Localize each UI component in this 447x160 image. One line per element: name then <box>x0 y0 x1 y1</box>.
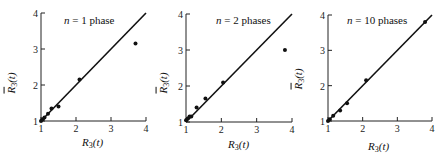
data-point <box>345 101 349 105</box>
x-tick-label: 2 <box>219 124 224 135</box>
data-point <box>78 78 82 82</box>
data-point <box>203 97 207 101</box>
reference-line <box>186 14 292 122</box>
x-tick-label: 1 <box>326 123 331 134</box>
panel-n10: 12341234 n = 10 phases R3(t) R3(t) <box>298 0 447 160</box>
y-tick-label: 4 <box>320 10 325 21</box>
y-axis-label: R3(t) <box>157 72 171 93</box>
x-tick-label: 3 <box>254 124 259 135</box>
y-tick-label: 4 <box>33 8 38 19</box>
y-tick-label: 2 <box>178 81 183 92</box>
data-point <box>57 105 61 109</box>
data-point <box>221 80 225 84</box>
x-tick-label: 4 <box>290 124 295 135</box>
data-point <box>134 42 138 46</box>
y-tick-label: 2 <box>33 80 38 91</box>
panel-n1: 12341234 n = 1 phase R3(t) R3(t) <box>0 0 149 160</box>
x-tick-label: 1 <box>39 123 44 134</box>
x-tick-label: 2 <box>74 123 79 134</box>
x-axis-label: R3(t) <box>228 138 249 152</box>
x-axis-label: R3(t) <box>82 136 103 150</box>
annotation: n = 1 phase <box>64 14 115 26</box>
x-tick-label: 3 <box>395 123 400 134</box>
y-tick-label: 3 <box>33 44 38 55</box>
y-tick-label: 1 <box>33 116 38 127</box>
y-tick-label: 1 <box>178 117 183 128</box>
data-point <box>46 112 50 116</box>
reference-line <box>41 13 146 121</box>
y-tick-label: 2 <box>320 81 325 92</box>
y-axis-label: R3(t) <box>5 72 19 93</box>
reference-line <box>328 15 432 121</box>
data-point <box>50 106 54 110</box>
y-axis-label: R3(t) <box>292 68 306 89</box>
panel-n2: 12341234 n = 2 phases R3(t) R3(t) <box>149 0 298 160</box>
data-point <box>283 48 287 52</box>
y-tick-label: 4 <box>178 9 183 20</box>
data-point <box>331 114 335 118</box>
data-point <box>189 115 193 119</box>
data-point <box>423 20 427 24</box>
data-point <box>338 108 342 112</box>
x-axis-label: R3(t) <box>368 140 389 154</box>
data-point <box>364 78 368 82</box>
x-tick-label: 3 <box>109 123 114 134</box>
y-tick-label: 3 <box>320 45 325 56</box>
data-point <box>43 115 47 119</box>
y-tick-label: 1 <box>320 116 325 127</box>
annotation: n = 2 phases <box>216 14 271 26</box>
annotation: n = 10 phases <box>347 14 407 26</box>
x-tick-label: 1 <box>184 124 189 135</box>
data-point <box>328 117 332 121</box>
x-tick-label: 2 <box>360 123 365 134</box>
x-tick-label: 4 <box>430 123 435 134</box>
x-tick-label: 4 <box>144 123 149 134</box>
y-tick-label: 3 <box>178 45 183 56</box>
data-point <box>195 106 199 110</box>
